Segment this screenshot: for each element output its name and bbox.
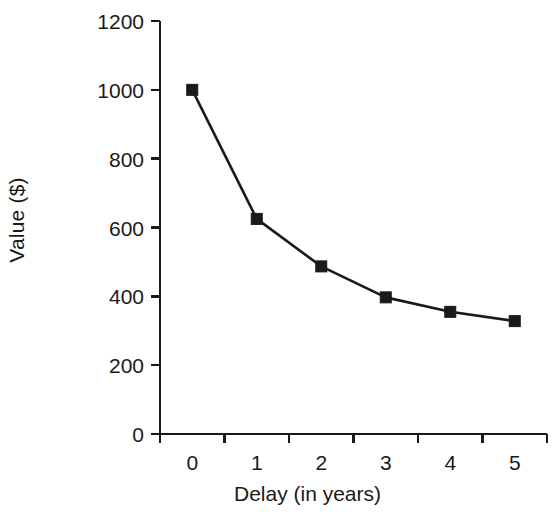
data-series-markers [187, 84, 521, 326]
data-point-marker [251, 213, 262, 224]
axis-lines [160, 21, 547, 434]
chart-figure: Value ($) 020040060080010001200 012345 D… [0, 0, 559, 518]
y-axis-ticks [151, 21, 160, 434]
plot-area [0, 0, 559, 518]
data-point-marker [316, 261, 327, 272]
data-point-marker [187, 84, 198, 95]
data-series-line [192, 90, 515, 321]
data-point-marker [509, 316, 520, 327]
x-axis-ticks [160, 434, 547, 443]
data-point-marker [380, 292, 391, 303]
data-point-marker [445, 306, 456, 317]
